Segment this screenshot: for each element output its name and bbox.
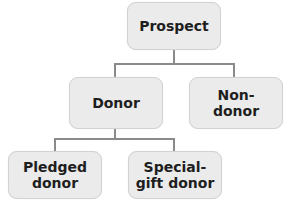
node-non-donor: Non- donor	[189, 77, 283, 129]
node-pledged-donor-label: Pledged donor	[23, 159, 87, 191]
node-donor: Donor	[69, 77, 163, 129]
node-special-gift-donor-label: Special- gift donor	[136, 159, 215, 191]
connector-to-non-donor	[233, 63, 235, 77]
node-prospect-label: Prospect	[139, 18, 209, 34]
node-special-gift-donor: Special- gift donor	[128, 151, 222, 199]
connector-level2-horizontal	[54, 138, 175, 140]
node-prospect: Prospect	[127, 2, 221, 50]
connector-level1-horizontal	[114, 63, 235, 65]
connector-to-special-gift-donor	[173, 138, 175, 151]
connector-prospect-down	[173, 49, 175, 64]
node-non-donor-label: Non- donor	[213, 87, 259, 119]
connector-to-pledged-donor	[54, 138, 56, 151]
connector-to-donor	[114, 63, 116, 77]
node-donor-label: Donor	[92, 95, 140, 111]
node-pledged-donor: Pledged donor	[8, 151, 102, 199]
